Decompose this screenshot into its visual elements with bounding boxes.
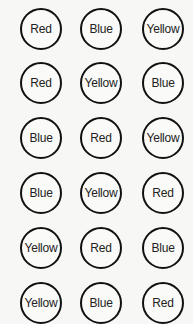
circle-text: Yellow bbox=[24, 296, 57, 310]
circle-label-r6-c3: Red bbox=[142, 282, 184, 324]
circle-text: Yellow bbox=[84, 76, 117, 90]
circle-text: Blue bbox=[151, 76, 174, 90]
circle-label-r4-c1: Blue bbox=[20, 172, 62, 214]
circle-text: Yellow bbox=[24, 241, 57, 255]
circle-text: Yellow bbox=[146, 22, 179, 36]
circle-text: Red bbox=[30, 76, 51, 90]
circle-label-r6-c2: Blue bbox=[80, 282, 122, 324]
circle-label-r4-c2: Yellow bbox=[80, 172, 122, 214]
circle-label-r2-c2: Yellow bbox=[80, 62, 122, 104]
circle-label-r1-c2: Blue bbox=[80, 8, 122, 50]
circle-label-r2-c1: Red bbox=[20, 62, 62, 104]
circle-text: Red bbox=[90, 131, 111, 145]
circle-label-r6-c1: Yellow bbox=[20, 282, 62, 324]
circle-label-r5-c2: Red bbox=[80, 227, 122, 269]
circle-label-r3-c2: Red bbox=[80, 117, 122, 159]
circle-label-r2-c3: Blue bbox=[142, 62, 184, 104]
circle-text: Red bbox=[152, 296, 173, 310]
circle-text: Blue bbox=[151, 241, 174, 255]
circle-text: Yellow bbox=[84, 186, 117, 200]
circle-label-r1-c1: Red bbox=[20, 8, 62, 50]
circle-label-r5-c3: Blue bbox=[142, 227, 184, 269]
circle-text: Red bbox=[152, 186, 173, 200]
circle-text: Blue bbox=[89, 296, 112, 310]
circle-label-r3-c3: Yellow bbox=[142, 117, 184, 159]
circle-text: Red bbox=[90, 241, 111, 255]
circle-label-r3-c1: Blue bbox=[20, 117, 62, 159]
circle-text: Blue bbox=[29, 186, 52, 200]
circle-label-r5-c1: Yellow bbox=[20, 227, 62, 269]
circle-text: Blue bbox=[89, 22, 112, 36]
circle-text: Yellow bbox=[146, 131, 179, 145]
circle-label-r1-c3: Yellow bbox=[142, 8, 184, 50]
circle-text: Red bbox=[30, 22, 51, 36]
circle-label-r4-c3: Red bbox=[142, 172, 184, 214]
circle-text: Blue bbox=[29, 131, 52, 145]
